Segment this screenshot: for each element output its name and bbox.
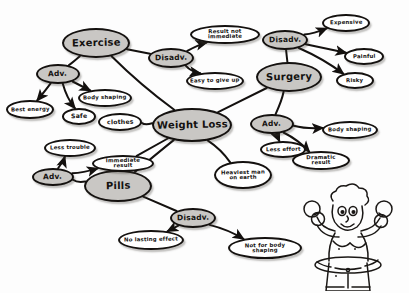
node-exercise-disadv[interactable]: Disadv. [148, 48, 194, 68]
node-body-shaping-left[interactable]: Body shaping [78, 89, 132, 107]
node-label: Less trouble [48, 145, 92, 151]
edge-exercise-to-exercise-disadv [127, 49, 150, 54]
node-label: No lasting effect [122, 237, 180, 244]
edge-surgery-disadv-to-expensive [304, 28, 326, 34]
node-label: Surgery [264, 71, 314, 82]
node-label: Easy to give up [188, 78, 242, 85]
node-label: Heaviest man on earth [216, 169, 270, 181]
node-pills-adv[interactable]: Adv. [32, 168, 74, 186]
edge-surgery-adv-to-less-effort [276, 134, 279, 141]
edge-exercise-disadv-to-result-not-immediate [187, 43, 206, 51]
edge-surgery-adv-to-body-shaping-right [294, 126, 323, 128]
node-label: Pills [104, 181, 133, 192]
node-best-energy[interactable]: Best energy [6, 100, 54, 119]
node-safe[interactable]: Safe [62, 108, 96, 125]
node-label: clothes [105, 119, 136, 126]
node-label: Adv. [260, 120, 283, 128]
node-exercise[interactable]: Exercise [62, 28, 130, 58]
node-painful[interactable]: Painful [344, 48, 384, 65]
node-less-trouble[interactable]: Less trouble [44, 139, 96, 157]
edge-surgery-to-surgery-adv [276, 92, 284, 114]
edge-exercise-adv-to-body-shaping-left [73, 82, 91, 91]
node-label: Dramatic result [294, 155, 348, 167]
cartoon-person-with-dumbbells-and-hula-hoop-icon [289, 179, 407, 291]
node-label: Less effort [264, 146, 303, 152]
edge-exercise-adv-to-safe [63, 84, 75, 108]
edge-pills-disadv-to-not-for-body-shaping [210, 225, 244, 239]
node-label: Disadv. [175, 214, 211, 222]
edge-pills-disadv-to-no-lasting-effect [168, 226, 179, 232]
edge-weight-loss-to-surgery [218, 88, 267, 112]
node-pills-disadv[interactable]: Disadv. [170, 208, 216, 228]
node-label: Adv. [41, 173, 64, 181]
node-label: Adv. [46, 70, 69, 78]
node-label: Immediate result [94, 157, 152, 169]
node-label: Disadv. [153, 54, 189, 62]
edge-pills-to-pills-adv [73, 180, 85, 182]
node-pills[interactable]: Pills [84, 170, 152, 202]
node-exercise-adv[interactable]: Adv. [36, 64, 80, 84]
node-label: Weight Loss [155, 119, 230, 131]
node-surgery-adv[interactable]: Adv. [250, 114, 294, 134]
node-clothes[interactable]: clothes [98, 113, 142, 131]
node-expensive[interactable]: Expensive [322, 14, 370, 32]
node-no-lasting-effect[interactable]: No lasting effect [118, 230, 184, 250]
edge-exercise-disadv-to-easy-to-give-up [186, 66, 201, 74]
node-label: Body shaping [326, 127, 374, 133]
node-risky[interactable]: Risky [336, 72, 374, 89]
node-label: Expensive [328, 20, 365, 26]
node-label: Result not immediate [192, 28, 258, 40]
node-easy-to-give-up[interactable]: Easy to give up [186, 72, 244, 90]
node-label: Disadv. [267, 36, 303, 44]
node-label: Risky [344, 78, 365, 84]
node-result-not-immediate[interactable]: Result not immediate [190, 25, 260, 44]
node-dramatic-result[interactable]: Dramatic result [292, 151, 350, 170]
node-surgery-disadv[interactable]: Disadv. [262, 30, 308, 50]
node-label: Body shaping [81, 95, 129, 101]
edge-pills-adv-to-less-trouble [58, 157, 65, 169]
node-label: Exercise [70, 37, 123, 48]
node-immediate-result[interactable]: Immediate result [92, 155, 154, 172]
node-weight-loss[interactable]: Weight Loss [152, 108, 232, 142]
edge-surgery-disadv-to-painful [306, 44, 346, 53]
edge-exercise-adv-to-best-energy [37, 83, 50, 100]
node-surgery[interactable]: Surgery [256, 62, 322, 92]
edge-weight-loss-to-heaviest-man-on-earth [208, 141, 230, 163]
edge-exercise-to-exercise-adv [69, 56, 80, 65]
node-heaviest-man-on-earth[interactable]: Heaviest man on earth [214, 161, 272, 189]
edge-weight-loss-to-immediate-result [137, 139, 168, 156]
node-label: Best energy [9, 106, 52, 112]
mindmap-canvas: Weight LossExerciseSurgeryPillsAdv.Disad… [0, 0, 409, 293]
edge-surgery-to-surgery-disadv [286, 50, 287, 62]
node-body-shaping-right[interactable]: Body shaping [322, 121, 378, 139]
edge-pills-to-pills-disadv [143, 197, 176, 211]
node-label: Safe [69, 113, 89, 120]
edge-weight-loss-to-clothes [142, 123, 152, 124]
node-label: Painful [351, 54, 378, 60]
